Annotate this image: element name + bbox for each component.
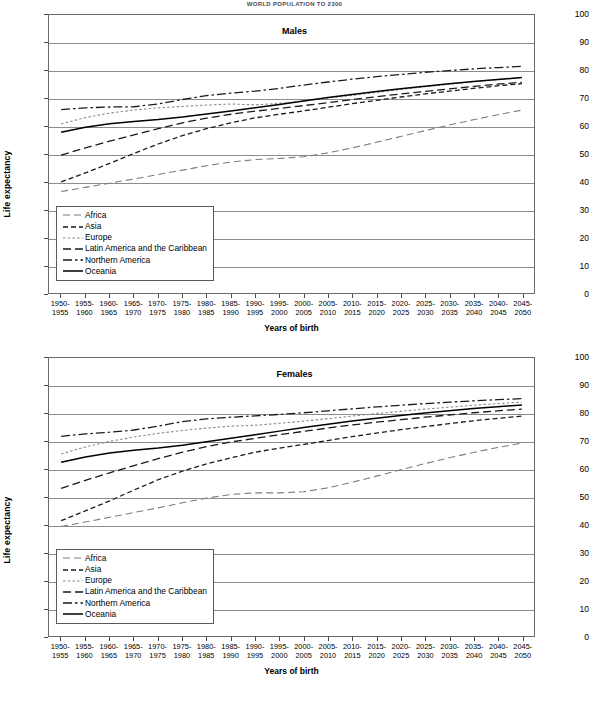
x-tick-mark xyxy=(231,294,232,298)
legend-label: Asia xyxy=(85,564,101,575)
x-tick-mark xyxy=(133,294,134,298)
legend-item[interactable]: Asia xyxy=(62,221,207,232)
x-tick-mark xyxy=(450,294,451,298)
legend-item[interactable]: Oceania xyxy=(62,266,207,277)
y-tick-label: 30 xyxy=(545,548,589,558)
x-tick-label: 2005-2010 xyxy=(319,299,338,318)
y-tick-mark xyxy=(44,154,48,155)
x-tick-mark xyxy=(328,294,329,298)
y-tick-label: 10 xyxy=(545,261,589,271)
x-tick-label: 1950-1955 xyxy=(51,642,70,661)
x-tick-label: 1980-1985 xyxy=(197,642,216,661)
x-tick-mark xyxy=(425,294,426,298)
y-tick-mark xyxy=(44,441,48,442)
x-tick-mark xyxy=(523,637,524,641)
legend-label: Northern America xyxy=(85,255,150,266)
chart-title-females: Females xyxy=(0,369,589,379)
x-tick-mark xyxy=(401,294,402,298)
x-axis-title: Years of birth xyxy=(48,666,535,676)
legend-item[interactable]: Oceania xyxy=(62,609,207,620)
x-tick-label: 2000-2005 xyxy=(294,642,313,661)
x-tick-label: 2040-2045 xyxy=(489,299,508,318)
legend-item[interactable]: Latin America and the Caribbean xyxy=(62,243,207,254)
y-tick-mark xyxy=(44,581,48,582)
series-line-europe xyxy=(61,78,522,124)
legend-item[interactable]: Asia xyxy=(62,564,207,575)
x-tick-label: 2035-2040 xyxy=(465,299,484,318)
legend-item[interactable]: Latin America and the Caribbean xyxy=(62,586,207,597)
y-tick-label: 80 xyxy=(545,408,589,418)
x-tick-mark xyxy=(85,294,86,298)
legend-swatch-icon xyxy=(62,576,84,586)
y-axis-label-container-females: Life expectancy xyxy=(0,357,52,702)
x-tick-mark xyxy=(474,294,475,298)
legend-label: Europe xyxy=(85,575,112,586)
y-tick-mark xyxy=(44,126,48,127)
legend-item[interactable]: Africa xyxy=(62,210,207,221)
series-line-asia xyxy=(61,84,522,182)
x-tick-label: 1975-1980 xyxy=(172,299,191,318)
legend-swatch-icon xyxy=(62,587,84,597)
x-tick-label: 2030-2035 xyxy=(440,642,459,661)
chart-panel-females: Life expectancy Females 0102030405060708… xyxy=(0,357,589,702)
legend-swatch-icon xyxy=(62,266,84,276)
x-tick-label: 2010-2015 xyxy=(343,642,362,661)
legend-item[interactable]: Africa xyxy=(62,553,207,564)
x-tick-mark xyxy=(255,294,256,298)
series-line-asia xyxy=(61,416,522,521)
y-tick-label: 90 xyxy=(545,380,589,390)
y-tick-mark xyxy=(44,98,48,99)
x-tick-label: 1990-1995 xyxy=(246,299,265,318)
x-tick-mark xyxy=(304,294,305,298)
legend-item[interactable]: Northern America xyxy=(62,598,207,609)
legend-label: Latin America and the Caribbean xyxy=(85,243,207,254)
y-tick-mark xyxy=(44,266,48,267)
legend-swatch-icon xyxy=(62,244,84,254)
x-tick-mark xyxy=(231,637,232,641)
y-tick-label: 40 xyxy=(545,520,589,530)
y-tick-mark xyxy=(44,182,48,183)
x-tick-label: 1990-1995 xyxy=(246,642,265,661)
x-tick-mark xyxy=(158,637,159,641)
x-tick-mark xyxy=(109,294,110,298)
legend-swatch-icon xyxy=(62,609,84,619)
legend-swatch-icon xyxy=(62,255,84,265)
x-tick-mark xyxy=(60,294,61,298)
x-tick-mark xyxy=(377,637,378,641)
y-tick-label: 50 xyxy=(545,492,589,502)
x-tick-label: 2025-2030 xyxy=(416,642,435,661)
legend-swatch-icon xyxy=(62,565,84,575)
y-tick-mark xyxy=(44,413,48,414)
legend-item[interactable]: Europe xyxy=(62,232,207,243)
chart-title-males: Males xyxy=(0,26,589,36)
x-tick-label: 2025-2030 xyxy=(416,299,435,318)
x-tick-label: 1980-1985 xyxy=(197,299,216,318)
x-tick-label: 2000-2005 xyxy=(294,299,313,318)
x-tick-mark xyxy=(109,637,110,641)
x-tick-label: 1965-1970 xyxy=(124,642,143,661)
legend-item[interactable]: Europe xyxy=(62,575,207,586)
x-tick-mark xyxy=(352,637,353,641)
chart-page: WORLD POPULATION TO 2300 Life expectancy… xyxy=(0,0,589,702)
legend-label: Africa xyxy=(85,210,106,221)
y-tick-label: 70 xyxy=(545,436,589,446)
x-tick-label: 1995-2000 xyxy=(270,642,289,661)
x-tick-label: 2010-2015 xyxy=(343,299,362,318)
y-tick-label: 100 xyxy=(545,9,589,19)
series-line-northern-america xyxy=(61,399,522,437)
y-tick-label: 40 xyxy=(545,177,589,187)
x-tick-label: 2030-2035 xyxy=(440,299,459,318)
legend-label: Africa xyxy=(85,553,106,564)
x-tick-label: 2015-2020 xyxy=(367,642,386,661)
x-tick-label: 1970-1975 xyxy=(148,299,167,318)
legend: AfricaAsiaEuropeLatin America and the Ca… xyxy=(56,206,214,281)
y-tick-label: 90 xyxy=(545,37,589,47)
x-tick-label: 1975-1980 xyxy=(172,642,191,661)
x-tick-mark xyxy=(133,637,134,641)
x-tick-mark xyxy=(401,637,402,641)
legend: AfricaAsiaEuropeLatin America and the Ca… xyxy=(56,549,214,624)
legend-item[interactable]: Northern America xyxy=(62,255,207,266)
x-tick-mark xyxy=(425,637,426,641)
x-tick-mark xyxy=(206,637,207,641)
x-tick-label: 2035-2040 xyxy=(465,642,484,661)
